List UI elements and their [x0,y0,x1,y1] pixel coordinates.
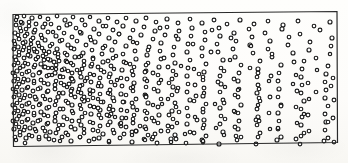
particle-dot [210,28,214,32]
figure-container: Particle concentration gradient Randomly… [0,0,348,163]
particle-dot [267,111,271,115]
particle-dot [200,54,204,58]
particle-dot [28,94,32,98]
particle-dot [171,85,175,89]
particle-dot [42,58,46,62]
particle-dot [299,75,303,79]
particle-dot [166,124,170,128]
particle-dot [79,75,83,79]
particle-dot [107,107,111,111]
particle-dot [119,92,123,96]
particle-dot [323,96,327,100]
particle-dot [46,57,50,61]
particle-dot [31,73,35,77]
particle-dot [91,96,95,100]
particle-dot [130,140,134,144]
particle-dot [79,123,83,127]
particle-dot [174,34,177,37]
particle-dot [167,113,171,117]
particle-dot [28,126,32,130]
particle-dot [247,27,251,31]
particle-dot [92,73,95,76]
particle-dot [212,18,216,22]
particle-dot [188,58,192,62]
particle-dot [292,60,296,64]
particle-dot [14,138,17,141]
particle-dot [20,72,24,76]
particle-dot [22,56,26,60]
particle-dot [299,134,303,138]
particle-dot [277,119,281,123]
particle-dot [65,85,68,88]
particle-dot [26,117,30,121]
particle-dot [113,115,116,118]
particle-dot [296,19,300,23]
particle-dot [82,127,85,130]
particle-dot [234,39,238,43]
particle-dot [22,45,26,49]
particle-dot [202,86,206,90]
particle-dot [101,46,105,50]
particle-dot [146,133,150,137]
particle-dot [111,28,115,32]
particle-dot [107,36,111,40]
particle-dot [218,74,222,78]
particle-dot [110,48,114,52]
particle-dot [52,60,56,64]
particle-dot [26,78,30,82]
particle-dot [166,129,170,133]
particle-dot [188,130,192,134]
particle-dot [323,112,327,116]
particle-dot [192,99,196,103]
particle-dot [167,81,171,85]
particle-dot [145,53,149,57]
particle-dot [119,121,122,124]
particle-dot [33,95,37,99]
particle-dot [132,113,136,117]
particle-dot [14,23,18,27]
particle-dot [47,105,51,109]
particle-dot [135,108,138,111]
particle-dot [188,98,192,102]
particle-dot [122,132,126,136]
particle-dot [183,132,186,135]
particle-dot [166,65,170,69]
particle-dot [326,64,330,68]
particle-dot [171,117,175,121]
particle-dot [173,133,177,137]
particle-dot [96,106,100,110]
particle-diagram [0,0,348,163]
particle-dot [74,26,78,30]
particle-dot [80,67,84,71]
particle-dot [86,98,90,102]
particle-dot [324,88,328,92]
particle-dot [302,112,305,115]
particle-dot [154,20,158,24]
particle-dot [219,114,223,118]
particle-dot [17,50,21,54]
particle-dot [202,123,206,127]
particle-dot [18,98,22,102]
particle-dot [117,32,121,36]
particle-dot [174,73,177,76]
particle-dot [46,17,50,21]
particle-dot [88,92,91,95]
particle-dot [98,92,102,96]
particle-dot [131,85,134,88]
particle-dot [32,79,35,82]
particle-dot [186,42,190,46]
particle-dot [106,91,109,94]
particle-dot [157,65,161,69]
particle-dot [107,75,111,79]
particle-dot [17,82,21,86]
particle-dot [57,59,61,63]
particle-dot [192,67,195,70]
particle-dot [268,95,272,99]
particle-dot [256,83,260,87]
particle-dot [200,46,204,50]
particle-dot [295,121,298,124]
particle-dot [88,104,92,108]
particle-dot [120,68,124,72]
particle-dot [93,40,97,44]
particle-dot [37,71,41,75]
